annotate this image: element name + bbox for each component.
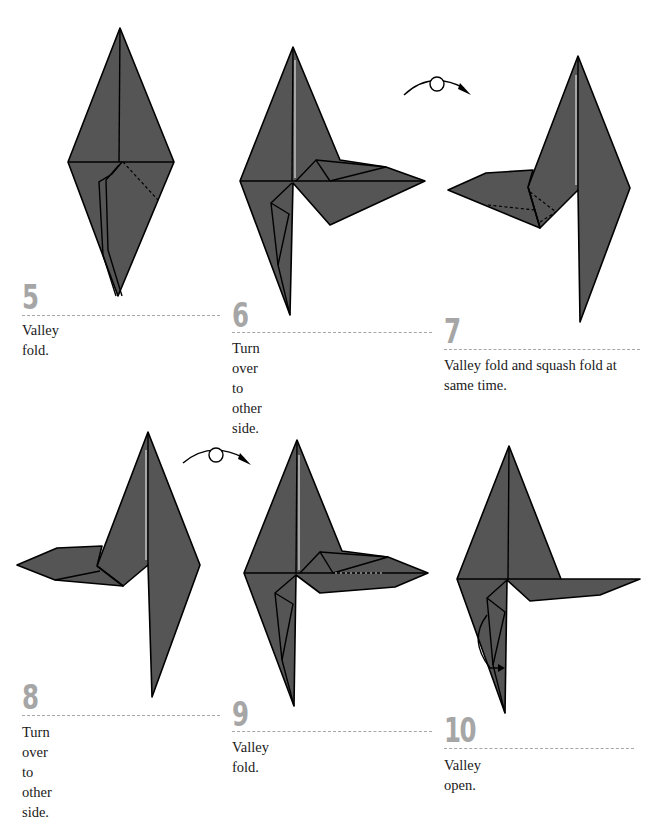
- divider: [22, 315, 220, 316]
- step-number: 9: [232, 697, 248, 731]
- step-9-figure: [244, 440, 428, 706]
- step-number: 6: [232, 298, 248, 332]
- step-5-figure: [68, 28, 174, 296]
- step-caption: Valley fold.: [232, 737, 269, 777]
- divider: [444, 349, 640, 350]
- step-7-figure: [448, 56, 630, 322]
- step-10-figure: [457, 446, 640, 713]
- step-caption: Valley fold and squash fold at same time…: [444, 355, 649, 395]
- divider: [232, 731, 432, 732]
- step-caption: Turn over to other side.: [22, 722, 52, 821]
- step-caption: Valley open.: [444, 755, 481, 795]
- step-caption: Turn over to other side.: [232, 338, 262, 438]
- step-number: 7: [444, 314, 460, 348]
- step-6-figure: [240, 47, 425, 315]
- divider: [232, 332, 432, 333]
- step-caption: Valley fold.: [22, 320, 59, 360]
- step-number: 8: [22, 680, 38, 714]
- step-number: 10: [444, 713, 475, 747]
- step-8-figure: [17, 432, 200, 697]
- divider: [22, 715, 220, 716]
- turn-over-icon: [183, 448, 251, 465]
- step-number: 5: [22, 280, 38, 314]
- divider: [444, 748, 634, 749]
- turn-over-icon: [404, 77, 471, 95]
